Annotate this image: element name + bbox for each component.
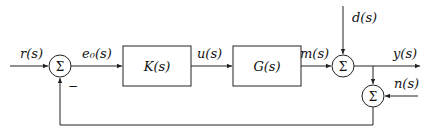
control-signal-label: u(s) (197, 46, 222, 61)
feedback-minus-sign: − (68, 79, 78, 93)
controller-label: K(s) (143, 59, 171, 74)
sum2-symbol: Σ (339, 60, 347, 74)
error-signal-label: e₀(s) (82, 46, 112, 61)
summing-junction-2: Σ (332, 55, 354, 77)
feedback-path (60, 78, 373, 125)
summing-junction-3: Σ (362, 85, 384, 107)
block-diagram: r(s) Σ − e₀(s) K(s) u(s) G(s) m(s) d(s) … (0, 0, 438, 131)
sum3-symbol: Σ (369, 90, 377, 104)
sum1-symbol: Σ (56, 60, 64, 74)
controller-block: K(s) (123, 46, 191, 86)
plant-output-label: m(s) (300, 46, 329, 61)
plant-label: G(s) (253, 59, 280, 74)
plant-block: G(s) (233, 46, 301, 86)
disturbance-label: d(s) (352, 10, 377, 25)
output-label: y(s) (392, 46, 417, 61)
reference-signal-label: r(s) (20, 46, 43, 61)
noise-label: n(s) (394, 76, 419, 91)
summing-junction-1: Σ (49, 55, 71, 77)
